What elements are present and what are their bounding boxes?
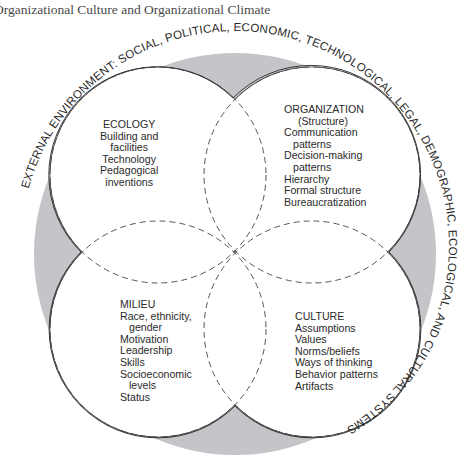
organization-title: ORGANIZATION (284, 104, 366, 116)
four-circle-diagram: EXTERNAL ENVIRONMENT: SOCIAL, POLITICAL,… (0, 0, 463, 461)
ecology-title: ECOLOGY (100, 119, 158, 131)
quadrant-milieu: MILIEU Race, ethnicity, gender Motivatio… (120, 299, 192, 403)
organization-item: patterns (284, 162, 366, 174)
quadrant-culture: CULTURE Assumptions Values Norms/beliefs… (295, 311, 378, 392)
quadrant-organization: ORGANIZATION (Structure) Communication p… (284, 104, 366, 208)
culture-title: CULTURE (295, 311, 378, 323)
organization-item: Bureaucratization (284, 197, 366, 209)
milieu-title: MILIEU (120, 299, 192, 311)
milieu-item: Skills (120, 357, 192, 369)
milieu-item: levels (120, 380, 192, 392)
culture-item: Behavior patterns (295, 369, 378, 381)
quadrant-ecology: ECOLOGY Building and facilities Technolo… (100, 119, 158, 189)
organization-item: Formal structure (284, 185, 366, 197)
culture-item: Artifacts (295, 381, 378, 393)
milieu-item: Status (120, 392, 192, 404)
ecology-item: inventions (100, 177, 158, 189)
